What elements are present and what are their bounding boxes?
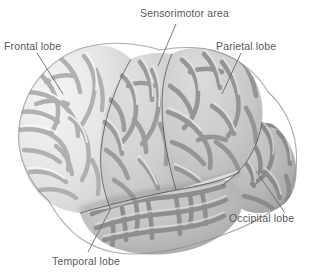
label-temporal-lobe: Temporal lobe: [52, 256, 120, 268]
label-occipital-lobe: Occipital lobe: [229, 213, 294, 225]
label-sensorimotor-area: Sensorimotor area: [140, 8, 229, 20]
label-parietal-lobe: Parietal lobe: [216, 41, 276, 53]
brain-diagram-figure: Frontal lobe Sensorimotor area Parietal …: [0, 0, 315, 274]
label-frontal-lobe: Frontal lobe: [4, 41, 61, 53]
